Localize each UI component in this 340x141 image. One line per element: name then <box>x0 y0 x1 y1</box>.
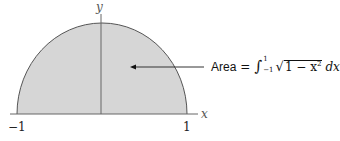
lower-limit: −1 <box>263 67 273 74</box>
tick-label-minus-one: −1 <box>8 121 26 133</box>
area-formula: Area = ∫ 1 −1 √ 1 − x2 dx <box>211 59 340 74</box>
upper-limit: 1 <box>263 56 273 63</box>
area-word: Area <box>211 61 236 73</box>
sqrt-sign: √ <box>276 60 284 73</box>
equals-sign: = <box>240 61 250 73</box>
differential: dx <box>325 61 339 73</box>
semicircle-region <box>17 23 187 114</box>
integral-limits: 1 −1 <box>263 60 273 74</box>
exponent: 2 <box>317 60 321 68</box>
radicand: 1 − x2 <box>284 60 323 73</box>
radicand-body: 1 − x <box>285 60 317 74</box>
integral-sign: ∫ <box>254 59 262 74</box>
tick-label-one: 1 <box>183 121 191 133</box>
x-axis-label: x <box>201 108 208 120</box>
y-axis-label: y <box>96 1 103 13</box>
